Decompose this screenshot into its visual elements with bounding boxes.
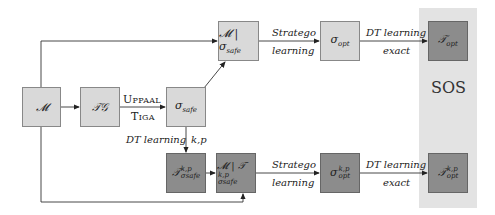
stratego-kp-label: Stratego: [272, 159, 316, 170]
uppaal-label: Uppaal: [123, 93, 161, 106]
sigma-opt-kp-box: σk,popt: [320, 153, 360, 193]
model-sigma-safe-box: 𝓜 | σsafe: [218, 21, 259, 61]
kp-label: k,p: [191, 134, 207, 145]
sigma-opt-box: σopt: [320, 21, 360, 61]
model-t-safe-kp-label: 𝓜 | 𝒯k,pσsafe: [217, 160, 255, 186]
exact-kp-label: exact: [383, 177, 410, 188]
learning-kp-label: learning: [272, 177, 314, 188]
timed-game-box: 𝒯𝒢: [80, 87, 120, 127]
tiga-label: Tiga: [131, 110, 155, 123]
t-opt-kp-label: 𝒯k,popt: [438, 166, 459, 180]
sigma-safe-box: σsafe: [166, 87, 206, 127]
t-opt-box: 𝒯opt: [428, 21, 468, 61]
t-safe-kp-label: 𝒯k,pσsafe: [172, 166, 200, 180]
dt-learning-kp-label: DT learning: [126, 134, 186, 145]
dt-learning-label: DT learning: [366, 27, 426, 38]
model-box: 𝓜: [22, 87, 61, 127]
learning-label: learning: [272, 45, 314, 56]
model-sigma-safe-label: 𝓜 | σsafe: [219, 27, 258, 55]
dt-learning-opt-kp-label: DT learning: [366, 159, 426, 170]
t-opt-kp-box: 𝒯k,popt: [428, 153, 468, 193]
model-label: 𝓜: [36, 101, 48, 114]
t-opt-label: 𝒯opt: [438, 33, 458, 48]
sigma-opt-kp-label: σk,popt: [330, 166, 350, 180]
t-safe-kp-box: 𝒯k,pσsafe: [166, 153, 206, 193]
model-t-safe-kp-box: 𝓜 | 𝒯k,pσsafe: [216, 153, 256, 193]
exact-label: exact: [383, 45, 410, 56]
sigma-safe-label: σsafe: [175, 99, 197, 114]
stratego-label: Stratego: [272, 27, 316, 38]
timed-game-label: 𝒯𝒢: [92, 101, 108, 114]
sigma-opt-label: σopt: [330, 33, 349, 48]
